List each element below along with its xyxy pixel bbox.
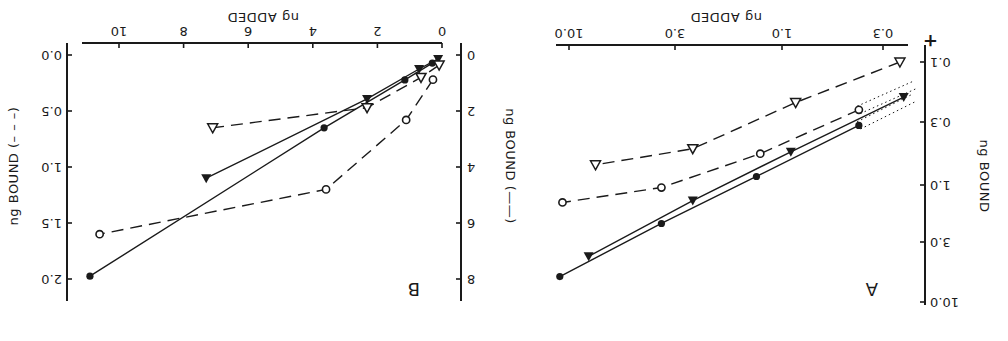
y-tick-label: 6 xyxy=(467,216,475,231)
marker-open-triangle xyxy=(208,124,218,133)
x-tick-label: 1.0 xyxy=(772,26,793,41)
y-tick-label: 0.0 xyxy=(41,48,62,63)
panel-b-left-y-ticks: 02468 xyxy=(456,48,475,287)
marker-filled-circle xyxy=(753,173,760,180)
panel-b: 0246810 02468 0.00.51.01.52.0 ng ADDED n… xyxy=(6,10,518,301)
marker-open-circle xyxy=(559,199,566,206)
x-tick-label: 8 xyxy=(179,24,187,39)
y-tick-label: 8 xyxy=(467,272,475,287)
marker-open-circle xyxy=(322,186,329,193)
marker-open-triangle xyxy=(791,99,801,108)
marker-open-circle xyxy=(429,76,436,83)
y-tick-label: 3.0 xyxy=(930,235,951,250)
series-filled-circle xyxy=(556,95,914,280)
y-tick-label: 0.5 xyxy=(41,104,62,119)
panel-a: + 0.31.03.010.0 0.10.31.03.010.0 ng ADDE… xyxy=(555,10,992,310)
figure-canvas: + 0.31.03.010.0 0.10.31.03.010.0 ng ADDE… xyxy=(0,0,1008,341)
y-tick-label: 1.0 xyxy=(930,178,951,193)
plus-mark: + xyxy=(923,31,938,52)
series-filled-triangle xyxy=(584,93,909,261)
marker-open-triangle xyxy=(416,73,426,82)
series-open-circle xyxy=(96,76,437,238)
marker-filled-circle xyxy=(658,220,665,227)
series-filled-circle xyxy=(86,60,436,280)
y-tick-label: 10.0 xyxy=(930,295,959,310)
marker-filled-triangle xyxy=(899,93,909,102)
panel-a-y-label: ng BOUND xyxy=(977,140,992,213)
panel-b-right-y-label: ng BOUND (– – –) xyxy=(6,107,21,226)
marker-open-circle xyxy=(855,106,862,113)
x-tick-label: 6 xyxy=(244,24,252,39)
x-tick-label: 3.0 xyxy=(665,26,686,41)
panel-b-left-y-label: ng BOUND (——) xyxy=(503,108,518,224)
y-tick-label: 1.5 xyxy=(41,216,62,231)
panel-b-series xyxy=(86,55,444,280)
marker-open-triangle xyxy=(895,58,905,67)
marker-filled-circle xyxy=(321,124,328,131)
y-tick-label: 0.1 xyxy=(930,55,951,70)
panel-b-x-label: ng ADDED xyxy=(227,10,299,25)
marker-filled-triangle xyxy=(786,148,796,157)
panel-a-series xyxy=(556,58,915,280)
panel-a-label: A xyxy=(865,279,878,300)
panel-b-label: B xyxy=(408,279,420,300)
y-tick-label: 2.0 xyxy=(41,272,62,287)
marker-filled-triangle xyxy=(688,197,698,206)
x-tick-label: 4 xyxy=(309,24,317,39)
x-tick-label: 0.3 xyxy=(873,26,894,41)
y-tick-label: 4 xyxy=(467,160,475,175)
x-tick-label: 10.0 xyxy=(555,26,584,41)
marker-filled-circle xyxy=(855,122,862,129)
y-tick-label: 0 xyxy=(467,48,475,63)
y-tick-label: 1.0 xyxy=(41,160,62,175)
marker-open-circle xyxy=(403,116,410,123)
y-tick-label: 0.3 xyxy=(930,115,951,130)
marker-open-triangle xyxy=(434,61,444,70)
series-open-circle xyxy=(559,82,915,206)
marker-filled-circle xyxy=(556,273,563,280)
marker-open-circle xyxy=(658,184,665,191)
x-tick-label: 0 xyxy=(438,24,446,39)
panel-b-x-ticks: 0246810 xyxy=(111,24,446,48)
x-tick-label: 2 xyxy=(373,24,381,39)
figure: + 0.31.03.010.0 0.10.31.03.010.0 ng ADDE… xyxy=(0,0,1008,341)
y-tick-label: 2 xyxy=(467,104,475,119)
marker-filled-triangle xyxy=(201,174,211,183)
x-tick-label: 10 xyxy=(111,24,128,39)
panel-a-x-label: ng ADDED xyxy=(690,10,762,25)
marker-open-circle xyxy=(96,231,103,238)
marker-open-triangle xyxy=(591,161,601,170)
marker-open-circle xyxy=(757,150,764,157)
panel-a-x-ticks: 0.31.03.010.0 xyxy=(555,26,894,50)
marker-filled-circle xyxy=(86,273,93,280)
